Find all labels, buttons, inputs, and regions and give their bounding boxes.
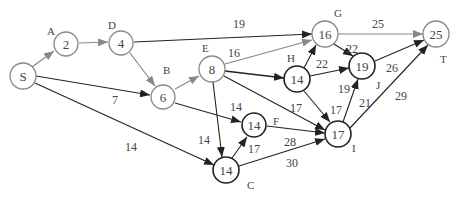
weight-C-F: 17	[248, 142, 260, 156]
node-F-letter: F	[273, 115, 279, 127]
graph-svg: 19 7 14 14 16 17 14 22 19 17 22 25 26 21…	[0, 0, 462, 199]
node-I-letter: I	[352, 142, 356, 154]
graph-diagram: 19 7 14 14 16 17 14 22 19 17 22 25 26 21…	[0, 0, 462, 199]
node-B-value: 6	[160, 90, 167, 105]
edge-E-H	[225, 71, 284, 78]
edge-B-E	[175, 76, 199, 89]
node-A-letter: A	[47, 25, 55, 37]
weight-D-G: 19	[233, 17, 245, 31]
node-C-value: 14	[220, 163, 234, 178]
node-J-value: 19	[356, 59, 369, 74]
node-J: 19 J	[349, 53, 381, 91]
edge-H-G	[304, 45, 316, 68]
node-T-letter: T	[440, 53, 447, 65]
weight-C-I: 30	[286, 156, 298, 170]
weight-B-F: 14	[230, 100, 242, 114]
node-F: 14 F	[242, 113, 279, 137]
node-I-value: 17	[332, 127, 346, 142]
node-S-value: S	[19, 69, 26, 84]
weight-H-G: 22	[316, 57, 328, 71]
edge-D-G	[134, 34, 312, 42]
node-F-value: 14	[248, 118, 262, 133]
weight-F-I: 28	[284, 135, 296, 149]
node-G-value: 16	[319, 27, 333, 42]
weight-H-I: 17	[330, 103, 342, 117]
node-C: 14 C	[213, 157, 254, 191]
node-A: 2 A	[47, 25, 78, 56]
node-G-letter: G	[334, 7, 342, 19]
node-A-value: 2	[63, 37, 70, 52]
node-H-letter: H	[287, 52, 295, 64]
node-S: S	[10, 63, 36, 89]
weight-E-I: 17	[290, 101, 302, 115]
weight-S-C: 14	[125, 140, 137, 154]
weight-H-J: 19	[338, 82, 350, 96]
edge-H-I	[304, 91, 330, 122]
edge-E-C	[213, 82, 222, 157]
edge-S-B	[36, 76, 150, 95]
node-H-value: 14	[291, 72, 305, 87]
node-B-letter: B	[163, 64, 170, 76]
node-G: 16 G	[312, 7, 342, 47]
edge-C-F	[232, 137, 247, 158]
node-J-letter: J	[376, 79, 381, 91]
node-E: 8 E	[199, 42, 225, 82]
edge-F-I	[267, 126, 325, 133]
node-D-value: 4	[118, 36, 125, 51]
weight-I-T: 29	[395, 89, 407, 103]
node-D: 4 D	[108, 19, 133, 55]
weight-E-C: 14	[198, 133, 210, 147]
weight-I-J: 21	[359, 96, 371, 110]
node-T-value: 25	[430, 27, 443, 42]
edge-S-A	[32, 51, 54, 67]
node-T: 25 T	[423, 21, 449, 65]
edge-D-B	[130, 53, 155, 86]
node-D-letter: D	[108, 19, 116, 31]
edge-A-D	[79, 42, 108, 43]
node-B: 6 B	[151, 64, 175, 109]
node-E-value: 8	[209, 62, 216, 77]
node-C-letter: C	[247, 179, 254, 191]
weight-S-B: 7	[112, 93, 118, 107]
node-H: 14 H	[284, 52, 310, 92]
weight-G-T: 25	[372, 17, 384, 31]
node-E-letter: E	[202, 42, 209, 54]
weight-E-G: 16	[228, 46, 240, 60]
weight-J-T: 26	[386, 61, 398, 75]
